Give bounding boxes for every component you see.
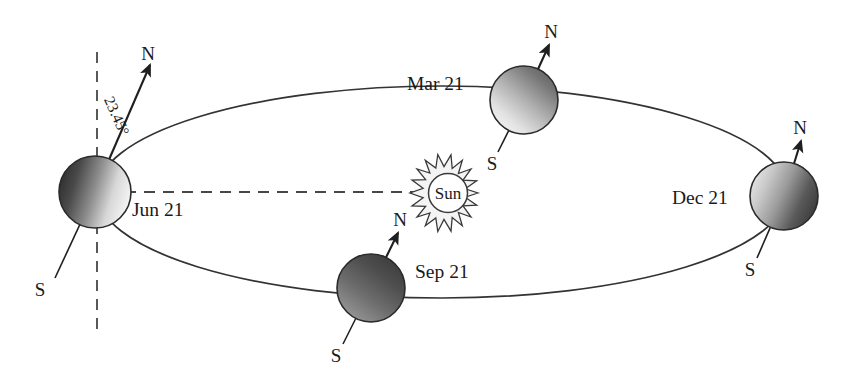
dec21-date-label: Dec 21 (672, 187, 728, 208)
sep21-south-pole-label: S (331, 345, 342, 366)
mar21-south-pole-label: S (487, 153, 498, 174)
earth-position-sep21[interactable] (337, 233, 405, 344)
sep21-north-pole-label: N (393, 209, 407, 230)
sun-label: Sun (435, 184, 462, 203)
sep21-earth-globe (337, 254, 405, 322)
diagram-canvas: Sun 23.45° N S N S N S N S Jun 21 Mar 21… (0, 0, 857, 378)
mar21-date-label: Mar 21 (407, 73, 464, 94)
earth-position-jun21[interactable] (55, 65, 150, 278)
dec21-earth-globe (750, 162, 818, 230)
jun21-date-label: Jun 21 (132, 199, 183, 220)
earth-orbit-diagram: Sun 23.45° N S N S N S N S Jun 21 Mar 21… (0, 0, 857, 378)
jun21-earth-globe (59, 156, 131, 228)
jun21-north-pole-label: N (141, 43, 155, 64)
mar21-north-pole-label: N (544, 21, 558, 42)
jun21-south-pole-label: S (35, 279, 46, 300)
dec21-north-pole-label: N (793, 117, 807, 138)
earth-position-mar21[interactable] (490, 45, 558, 152)
dec21-south-pole-label: S (745, 259, 756, 280)
mar21-earth-globe (490, 66, 558, 134)
sep21-date-label: Sep 21 (415, 261, 469, 282)
earth-position-dec21[interactable] (750, 141, 818, 258)
sun-starburst-icon[interactable]: Sun (410, 155, 478, 232)
